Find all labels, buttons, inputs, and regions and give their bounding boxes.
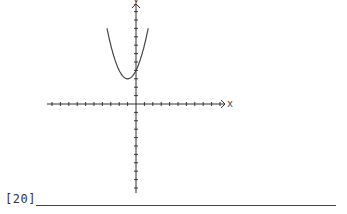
coordinate-plane: x y [0, 0, 347, 200]
parabola-curve [107, 28, 148, 78]
axes [47, 4, 225, 193]
question-number: [20] [5, 192, 36, 206]
y-axis-label: y [133, 0, 139, 5]
answer-line[interactable] [36, 205, 336, 206]
x-axis-label: x [227, 98, 233, 109]
